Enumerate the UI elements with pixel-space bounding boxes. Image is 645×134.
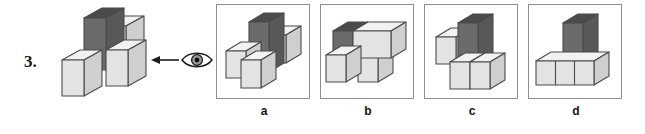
question-number: 3. — [24, 52, 37, 72]
left-arrow-icon — [151, 56, 179, 64]
answer-option-b[interactable]: b — [320, 4, 416, 118]
option-c-svg — [425, 5, 517, 98]
option-a-cube-front — [241, 51, 276, 88]
option-a-svg — [217, 5, 309, 98]
option-a-label: a — [216, 104, 312, 118]
answer-option-c[interactable]: c — [424, 4, 520, 118]
option-c-frame[interactable] — [424, 4, 518, 99]
option-b-frame[interactable] — [320, 4, 414, 99]
option-b-cube-front-left — [326, 46, 361, 82]
reference-cube-front-right — [106, 40, 146, 86]
option-c-cube-base-right — [470, 53, 505, 89]
answer-option-a[interactable]: a — [216, 4, 312, 118]
option-d-label: d — [528, 104, 624, 118]
reference-figure — [48, 4, 213, 114]
option-d-frame[interactable] — [528, 4, 622, 99]
option-b-svg — [321, 5, 413, 98]
answer-options: a — [216, 4, 628, 132]
option-d-base-row — [536, 52, 609, 85]
eye-icon — [182, 53, 212, 67]
option-c-label: c — [424, 104, 520, 118]
reference-figure-svg — [48, 4, 213, 114]
option-b-label: b — [320, 104, 416, 118]
reference-cube-front-left — [62, 50, 102, 96]
option-a-frame[interactable] — [216, 4, 310, 99]
answer-option-d[interactable]: d — [528, 4, 624, 118]
option-d-svg — [529, 5, 621, 98]
